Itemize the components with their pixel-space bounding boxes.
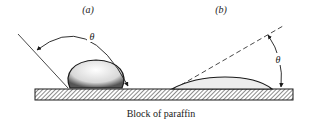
droplet-b [172, 77, 272, 89]
tangent-line-a [18, 34, 68, 88]
theta-b: θ [276, 54, 281, 65]
panel-a-label: (a) [82, 4, 94, 16]
panel-a: θ [18, 31, 128, 88]
theta-a: θ [90, 31, 95, 42]
paraffin-block [35, 89, 293, 100]
panel-b: θ [172, 26, 283, 89]
figure-caption: Block of paraffin [127, 108, 196, 119]
contact-angle-diagram: (a) (b) θ θ Block of paraffin [0, 0, 309, 127]
panel-b-label: (b) [215, 4, 227, 16]
droplet-a [68, 60, 124, 88]
